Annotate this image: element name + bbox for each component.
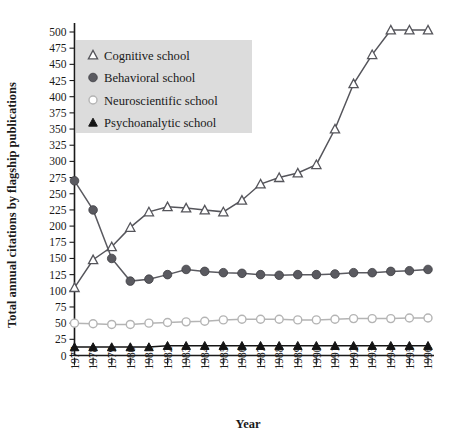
legend-item-label: Neuroscientific school xyxy=(104,94,218,108)
y-tick-label: 425 xyxy=(49,75,67,87)
data-point-marker xyxy=(350,315,358,323)
data-point-marker xyxy=(368,268,377,277)
y-tick-label: 75 xyxy=(55,301,67,313)
data-point-marker xyxy=(312,270,321,279)
y-tick-label: 200 xyxy=(49,220,67,232)
data-point-marker xyxy=(386,267,395,276)
data-point-marker xyxy=(70,177,79,186)
data-point-marker xyxy=(330,124,339,133)
data-point-marker xyxy=(349,79,358,88)
data-point-marker xyxy=(405,266,414,275)
data-point-marker xyxy=(238,315,246,323)
data-point-marker xyxy=(163,270,172,279)
chart-canvas: 0255075100125150175200225250275300325350… xyxy=(0,0,451,433)
data-point-marker xyxy=(349,268,358,277)
legend-item-label: Cognitive school xyxy=(104,49,190,63)
y-tick-label: 350 xyxy=(49,123,67,135)
citation-trend-chart: 0255075100125150175200225250275300325350… xyxy=(0,0,451,433)
data-point-marker xyxy=(387,315,395,323)
data-point-marker xyxy=(238,269,247,278)
data-point-marker xyxy=(219,268,228,277)
y-axis-tick-labels: 0255075100125150175200225250275300325350… xyxy=(49,26,67,362)
legend-item[interactable]: Behavioral school xyxy=(89,71,196,85)
y-tick-label: 225 xyxy=(49,204,67,216)
data-point-marker xyxy=(70,283,79,292)
data-point-marker xyxy=(405,314,413,322)
data-point-marker xyxy=(89,73,98,82)
data-point-marker xyxy=(219,316,227,324)
y-tick-label: 400 xyxy=(49,91,67,103)
y-tick-label: 150 xyxy=(49,252,67,264)
data-point-marker xyxy=(108,320,116,328)
data-point-marker xyxy=(107,254,116,263)
data-point-marker xyxy=(89,255,98,264)
data-point-marker xyxy=(257,315,265,323)
data-point-marker xyxy=(331,315,339,323)
data-point-marker xyxy=(294,316,302,324)
data-point-marker xyxy=(89,320,97,328)
y-tick-label: 375 xyxy=(49,107,67,119)
y-tick-label: 250 xyxy=(49,188,67,200)
data-point-marker xyxy=(424,265,433,274)
data-point-marker xyxy=(126,320,134,328)
data-point-marker xyxy=(424,314,432,322)
data-point-marker xyxy=(275,315,283,323)
y-tick-label: 25 xyxy=(55,333,67,345)
series-neuroscientific-school xyxy=(71,314,433,328)
data-point-marker xyxy=(89,206,98,215)
y-tick-label: 100 xyxy=(49,285,67,297)
y-tick-label: 450 xyxy=(49,58,67,70)
x-axis-tick-labels: 1977197819791980198119821983198419851986… xyxy=(69,346,435,369)
legend-item-label: Behavioral school xyxy=(104,71,196,85)
y-tick-label: 325 xyxy=(49,139,67,151)
data-point-marker xyxy=(293,270,302,279)
data-point-marker xyxy=(145,319,153,327)
data-point-marker xyxy=(201,317,209,325)
data-point-marker xyxy=(293,168,302,177)
data-point-marker xyxy=(256,270,265,279)
legend-item-label: Psychoanalytic school xyxy=(104,116,217,130)
data-point-marker xyxy=(89,96,97,104)
y-tick-label: 275 xyxy=(49,172,67,184)
data-point-marker xyxy=(126,277,135,286)
data-point-marker xyxy=(182,318,190,326)
data-point-marker xyxy=(312,160,321,169)
y-tick-label: 475 xyxy=(49,42,67,54)
y-tick-label: 50 xyxy=(55,317,67,329)
data-point-marker xyxy=(368,315,376,323)
y-tick-label: 500 xyxy=(49,26,67,38)
data-point-marker xyxy=(331,270,340,279)
y-tick-label: 0 xyxy=(61,350,67,362)
legend-item[interactable]: Cognitive school xyxy=(88,49,190,63)
data-point-marker xyxy=(312,316,320,324)
x-axis-title: Year xyxy=(236,417,261,431)
chart-legend: Cognitive schoolBehavioral schoolNeurosc… xyxy=(76,40,252,133)
legend-item[interactable]: Neuroscientific school xyxy=(89,94,218,108)
data-point-marker xyxy=(145,275,154,284)
y-tick-label: 175 xyxy=(49,236,67,248)
data-point-marker xyxy=(275,271,284,280)
y-axis-title: Total annual citations by flagship publi… xyxy=(5,82,19,328)
data-point-marker xyxy=(200,267,209,276)
data-point-marker xyxy=(71,319,79,327)
y-tick-label: 125 xyxy=(49,269,67,281)
data-point-marker xyxy=(182,265,191,274)
y-tick-label: 300 xyxy=(49,155,67,167)
data-point-marker xyxy=(164,319,172,327)
legend-item[interactable]: Psychoanalytic school xyxy=(89,116,217,130)
